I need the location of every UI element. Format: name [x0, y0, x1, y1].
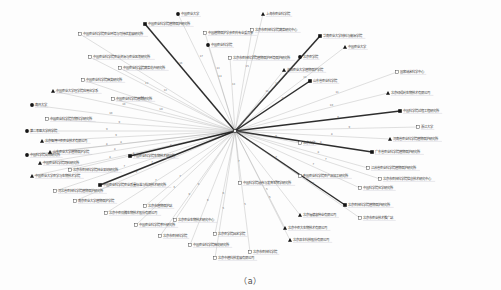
graph-node[interactable]: 河南省农业科学院植物保护研究所: [388, 136, 442, 141]
graph-node[interactable]: 中国农业科学院茶叶研究所: [134, 222, 178, 227]
node-label: 浙江大学: [421, 124, 434, 129]
edge-weight-label: 13: [232, 83, 236, 86]
edge-weight-label: 10: [159, 108, 163, 111]
node-label: 中国农业大学农学与生物技术学院: [35, 173, 81, 178]
graph-node[interactable]: 北京市农林科学院林业果树研究所: [68, 167, 122, 172]
graph-node[interactable]: 上海市农业科学院: [261, 11, 292, 16]
graph-node[interactable]: 中国农业大学农学与生物技术学院: [30, 173, 84, 178]
graph-node[interactable]: 南京农业大学植物保护学院: [73, 198, 117, 203]
graph-node[interactable]: 中国农业科学院棉花研究所: [188, 242, 232, 247]
graph-node[interactable]: 北京绿得利生物技术有限公司: [386, 90, 433, 95]
graph-node[interactable]: 国家纳米科学中心: [395, 69, 426, 74]
triangle-icon: [282, 68, 286, 72]
hollow-square-icon: [378, 177, 381, 180]
graph-node[interactable]: 北京中农劲腾生物技术股份有限公司: [104, 210, 161, 215]
graph-node[interactable]: 中国农业科学院农业资源与农业区划研究所: [88, 54, 154, 59]
edge-weight-label: 5: [266, 188, 268, 191]
node-label: 中国科学院遗传与发育生物学研究所: [243, 180, 292, 185]
graph-node[interactable]: 北京市农林科学院蔬菜研究中心: [250, 27, 300, 32]
hollow-square-icon: [250, 28, 253, 31]
graph-node[interactable]: 北京市农业技术推广站: [358, 215, 395, 220]
graph-node[interactable]: 北京农学院: [298, 54, 319, 59]
graph-node[interactable]: 北京市农林科学院信息技术研究中心: [378, 176, 435, 181]
graph-node[interactable]: 浙江大学: [416, 124, 434, 129]
graph-edge: [235, 131, 368, 168]
graph-node[interactable]: 河北省农林科学院植物保护研究所: [53, 188, 107, 193]
graph-node[interactable]: 中国科学院过程工程研究所: [398, 108, 442, 113]
graph-node[interactable]: 北京农林科学院植物保护研究所: [343, 202, 393, 207]
graph-node[interactable]: 江苏省农业科学院植物保护研究所: [366, 165, 420, 170]
hollow-square-icon: [88, 55, 91, 58]
graph-node[interactable]: 北京智博兴农农业技术有限公司: [40, 138, 91, 143]
graph-node[interactable]: 中国农业科学院饲料研究所: [38, 160, 82, 165]
hollow-square-icon: [358, 216, 361, 219]
edge-weight-label: 10: [282, 97, 286, 100]
graph-node[interactable]: 中国科学院遗传与发育生物学研究所: [238, 180, 295, 185]
node-label: 北京大学: [303, 140, 316, 145]
graph-node[interactable]: 中国农业科学院农业环境与可持续发展研究所: [78, 31, 148, 36]
graph-node[interactable]: 山东省农业科学院: [308, 78, 339, 83]
node-label: 北京市农林科学院林业果树研究所: [73, 167, 119, 172]
graph-node[interactable]: 中国农业科学院植物研究所: [111, 96, 155, 101]
hollow-square-icon: [213, 256, 216, 259]
node-label: 中国农业大学: [348, 44, 367, 49]
node-label: 中国农业科学院农业环境与可持续发展研究所: [83, 31, 144, 36]
graph-node[interactable]: 中国农业科学院农产品加工研究所: [298, 173, 352, 178]
node-label: 中国农业科学院棉花研究所: [193, 242, 230, 247]
graph-node[interactable]: 北京农业生物技术研究中心: [173, 217, 217, 222]
graph-node[interactable]: 北京市农林科学院: [248, 249, 279, 254]
graph-node[interactable]: 中国植物保护学会农药专业委员会: [203, 30, 257, 35]
node-label: 北京农林科学院植物保护研究所: [348, 202, 391, 207]
edge-weight-label: 17: [200, 55, 204, 58]
edge-weight-label: 7: [136, 171, 138, 174]
hub-node[interactable]: [233, 129, 236, 132]
hollow-square-icon: [298, 174, 301, 177]
graph-node[interactable]: 北京农学院园艺学院: [213, 231, 247, 236]
node-label: 北京市农林科学院信息技术研究中心: [383, 176, 432, 181]
filled-circle-icon: [176, 12, 180, 16]
graph-node[interactable]: 中国农业科学院作物科学研究所: [45, 116, 95, 121]
edge-weight-label: 5: [223, 207, 225, 210]
graph-node[interactable]: 沈阳农业大学植物保护学院: [282, 67, 326, 72]
graph-node[interactable]: 北京市农林科学院植物保护环境保护研究所: [228, 55, 294, 60]
triangle-icon: [288, 238, 292, 242]
graph-edge: [235, 131, 380, 179]
filled-circle-icon: [298, 55, 302, 59]
graph-node[interactable]: 中国农业科学院蔬菜花卉研究所: [118, 65, 168, 70]
graph-node[interactable]: 中国农业科学院: [206, 42, 234, 47]
graph-node[interactable]: 北京市农林科学院: [158, 233, 189, 238]
node-label: 中国农业科学院: [211, 42, 233, 47]
graph-node[interactable]: 中国科学院化学研究所: [358, 185, 395, 190]
node-label: 北京农学院: [303, 54, 319, 59]
graph-node[interactable]: 中国农业科学院植物保护研究所: [143, 21, 193, 26]
graph-edge: [83, 80, 235, 131]
filled-square-icon: [98, 183, 102, 187]
node-label: 北京中农劲腾生物技术股份有限公司: [109, 210, 157, 215]
graph-edge: [113, 99, 235, 131]
node-label: 北京市植物保护站: [148, 203, 173, 208]
graph-node[interactable]: 华南农业大学材料与能源学院: [318, 33, 365, 38]
graph-node[interactable]: 北京市植物保护站: [143, 203, 174, 208]
graph-node[interactable]: 北京双丰科技股份有限公司: [288, 237, 332, 242]
graph-node[interactable]: 北京中植科技发展有限公司: [213, 255, 257, 260]
node-label: 中国农业科学院麻类研究所: [86, 77, 123, 82]
graph-node[interactable]: 中国农业大学: [343, 44, 368, 49]
graph-node[interactable]: 山东农业大学植物保护学院: [48, 149, 92, 154]
hollow-square-icon: [238, 181, 241, 184]
graph-node[interactable]: 中国农业大学理学院应用化学系: [51, 88, 102, 93]
graph-node[interactable]: 北京中农大生物技术有限公司: [283, 225, 330, 230]
graph-node[interactable]: 中国农业科学院麻类研究所: [81, 77, 125, 82]
graph-node[interactable]: 中国农业大学: [176, 11, 201, 16]
graph-node[interactable]: 北京福德惠种业有限公司: [298, 212, 339, 217]
graph-node[interactable]: 南开大学: [30, 102, 48, 107]
graph-node[interactable]: 中国农业科学院生物技术研究所: [128, 153, 178, 158]
edge-weight-label: 8: [317, 151, 319, 154]
graph-node[interactable]: 第二军医大学药学院: [25, 128, 59, 133]
graph-node[interactable]: 广东省农业科学院植物保护研究所: [370, 149, 424, 154]
edge-weight-label: 11: [265, 90, 269, 93]
hollow-square-icon: [134, 223, 137, 226]
edge-weight-label: 5: [244, 203, 246, 206]
edge-weight-label: 16: [179, 62, 183, 65]
graph-node[interactable]: 中国农业科学院农业质量标准与检测技术研究所: [98, 182, 171, 187]
node-label: 中国植物保护学会农药专业委员会: [208, 30, 254, 35]
